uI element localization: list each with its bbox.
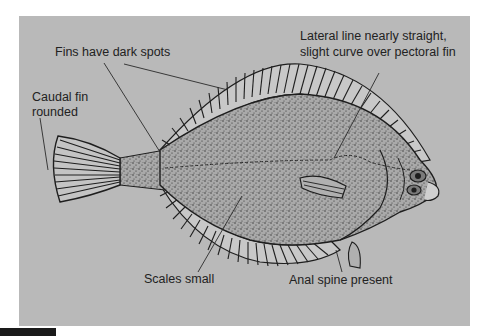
label-caudal-fin-line1: Caudal fin (32, 90, 88, 105)
label-lateral-line-line2: slight curve over pectoral fin (300, 45, 456, 60)
illustration-panel: Fins have dark spots Caudal fin rounded … (19, 16, 470, 326)
label-caudal-fin-line2: rounded (32, 105, 78, 120)
flounder-drawing (19, 16, 470, 326)
pelvic-fin (348, 242, 360, 268)
label-fins-dark-spots: Fins have dark spots (55, 45, 170, 60)
label-lateral-line-line1: Lateral line nearly straight, (300, 29, 447, 44)
label-anal-spine: Anal spine present (289, 273, 393, 288)
bottom-black-bar (0, 328, 56, 336)
label-scales-small: Scales small (144, 272, 214, 287)
caudal-fin (53, 136, 165, 202)
